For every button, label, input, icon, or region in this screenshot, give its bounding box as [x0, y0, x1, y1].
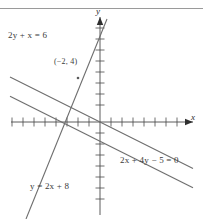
equation-label-line3: y = 2x + 8	[30, 181, 69, 191]
line-2x-plus-4y-minus-5-equals-0	[10, 96, 193, 188]
equation-label-line1: 2y + x = 6	[8, 30, 47, 40]
x-axis-label: x	[191, 112, 195, 122]
intersection-point-marker	[77, 77, 80, 80]
linear-equations-figure: 2y + x = 6 2x + 4y − 5 = 0 y = 2x + 8 (−…	[0, 0, 203, 219]
equation-label-line2: 2x + 4y − 5 = 0	[120, 155, 179, 165]
intersection-point-label: (−2, 4)	[54, 57, 77, 66]
y-axis-arrowhead	[97, 17, 103, 25]
y-axis-label: y	[96, 6, 100, 16]
